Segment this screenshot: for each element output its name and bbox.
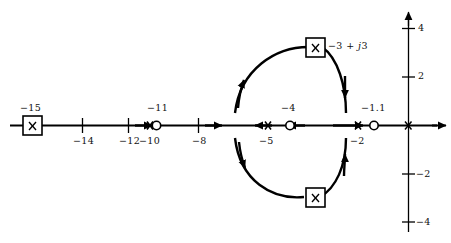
root-locus-canvas — [0, 0, 451, 243]
label-imag-2: 2 — [418, 71, 424, 81]
label-minus14: −14 — [73, 136, 94, 146]
zero-marker-minus11 — [152, 121, 160, 129]
root-locus-figure: −15 −14 −12 −11 −10 −8 −5 −4 −2 −1.1 −3 … — [0, 0, 451, 243]
label-imag-minus4: −4 — [416, 217, 431, 227]
imaginary-axis — [402, 12, 415, 232]
label-minus4: −4 — [281, 103, 296, 113]
zero-marker-minus1p1 — [370, 121, 378, 129]
locus-arrow-upper-left-branch — [238, 80, 244, 108]
label-minus8: −8 — [192, 136, 207, 146]
boxed-design-point-lower — [306, 188, 325, 207]
label-minus2: −2 — [350, 136, 365, 146]
boxed-design-point-upper — [306, 38, 325, 57]
design-label-imag: 3 — [361, 40, 367, 51]
label-minus11: −11 — [147, 103, 168, 113]
label-minus1p1: −1.1 — [361, 103, 386, 113]
label-minus12: −12 — [119, 136, 140, 146]
label-imag-minus2: −2 — [416, 169, 431, 179]
label-minus10: −10 — [139, 136, 160, 146]
label-minus5: −5 — [259, 136, 274, 146]
locus-arrow-lower-right-branch — [344, 154, 345, 176]
label-design-point-upper: −3 + j3 — [328, 41, 368, 51]
label-imag-4: 4 — [418, 23, 424, 33]
boxed-pole-minus15 — [23, 116, 42, 135]
label-minus15: −15 — [20, 103, 41, 113]
design-label-real: −3 + — [328, 40, 358, 51]
zero-marker-minus4 — [286, 121, 294, 129]
locus-arc-upper-left — [235, 47, 311, 113]
boxed-pole-markers — [23, 38, 325, 207]
